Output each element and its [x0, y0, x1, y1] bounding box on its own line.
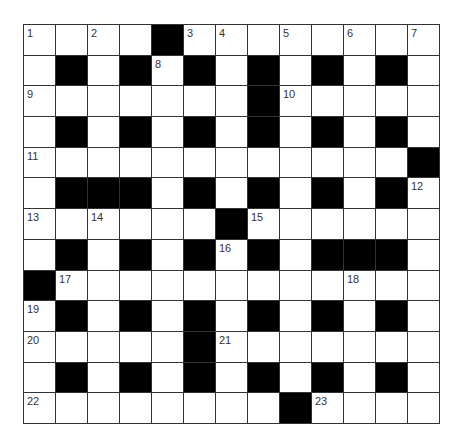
answer-cell[interactable] — [88, 240, 119, 270]
answer-cell[interactable] — [344, 393, 375, 423]
answer-cell[interactable] — [216, 86, 247, 116]
answer-cell[interactable] — [184, 148, 215, 178]
answer-cell[interactable]: 3 — [184, 25, 215, 55]
answer-cell[interactable] — [408, 117, 439, 147]
answer-cell[interactable] — [248, 332, 279, 362]
answer-cell[interactable] — [24, 363, 55, 393]
answer-cell[interactable] — [312, 148, 343, 178]
answer-cell[interactable] — [280, 178, 311, 208]
answer-cell[interactable] — [280, 363, 311, 393]
answer-cell[interactable]: 19 — [24, 301, 55, 331]
answer-cell[interactable] — [88, 86, 119, 116]
answer-cell[interactable] — [376, 271, 407, 301]
answer-cell[interactable]: 14 — [88, 209, 119, 239]
answer-cell[interactable] — [376, 209, 407, 239]
answer-cell[interactable] — [248, 148, 279, 178]
answer-cell[interactable] — [184, 393, 215, 423]
answer-cell[interactable] — [312, 86, 343, 116]
answer-cell[interactable] — [216, 271, 247, 301]
answer-cell[interactable] — [24, 178, 55, 208]
answer-cell[interactable]: 4 — [216, 25, 247, 55]
answer-cell[interactable] — [280, 240, 311, 270]
answer-cell[interactable] — [152, 301, 183, 331]
answer-cell[interactable] — [216, 393, 247, 423]
answer-cell[interactable] — [280, 332, 311, 362]
answer-cell[interactable]: 12 — [408, 178, 439, 208]
answer-cell[interactable]: 15 — [248, 209, 279, 239]
answer-cell[interactable]: 23 — [312, 393, 343, 423]
answer-cell[interactable] — [184, 271, 215, 301]
answer-cell[interactable] — [408, 209, 439, 239]
answer-cell[interactable] — [24, 240, 55, 270]
answer-cell[interactable] — [376, 148, 407, 178]
answer-cell[interactable] — [312, 209, 343, 239]
answer-cell[interactable] — [312, 271, 343, 301]
answer-cell[interactable]: 21 — [216, 332, 247, 362]
answer-cell[interactable] — [120, 25, 151, 55]
answer-cell[interactable] — [56, 86, 87, 116]
answer-cell[interactable] — [344, 332, 375, 362]
answer-cell[interactable] — [88, 56, 119, 86]
answer-cell[interactable] — [344, 56, 375, 86]
answer-cell[interactable] — [344, 178, 375, 208]
answer-cell[interactable] — [408, 86, 439, 116]
answer-cell[interactable]: 8 — [152, 56, 183, 86]
answer-cell[interactable] — [56, 148, 87, 178]
answer-cell[interactable] — [152, 332, 183, 362]
answer-cell[interactable] — [344, 117, 375, 147]
answer-cell[interactable] — [120, 209, 151, 239]
answer-cell[interactable]: 17 — [56, 271, 87, 301]
answer-cell[interactable] — [376, 332, 407, 362]
answer-cell[interactable] — [120, 86, 151, 116]
answer-cell[interactable] — [312, 332, 343, 362]
answer-cell[interactable] — [408, 301, 439, 331]
answer-cell[interactable] — [280, 117, 311, 147]
answer-cell[interactable] — [88, 148, 119, 178]
answer-cell[interactable] — [88, 393, 119, 423]
answer-cell[interactable] — [248, 25, 279, 55]
answer-cell[interactable] — [280, 148, 311, 178]
answer-cell[interactable] — [344, 301, 375, 331]
answer-cell[interactable] — [376, 86, 407, 116]
answer-cell[interactable] — [280, 271, 311, 301]
answer-cell[interactable] — [152, 209, 183, 239]
answer-cell[interactable] — [216, 178, 247, 208]
answer-cell[interactable]: 18 — [344, 271, 375, 301]
answer-cell[interactable] — [376, 25, 407, 55]
answer-cell[interactable] — [280, 56, 311, 86]
answer-cell[interactable] — [56, 393, 87, 423]
answer-cell[interactable]: 7 — [408, 25, 439, 55]
answer-cell[interactable] — [408, 240, 439, 270]
answer-cell[interactable] — [216, 301, 247, 331]
answer-cell[interactable]: 6 — [344, 25, 375, 55]
answer-cell[interactable] — [408, 271, 439, 301]
answer-cell[interactable]: 22 — [24, 393, 55, 423]
answer-cell[interactable] — [280, 209, 311, 239]
answer-cell[interactable] — [88, 271, 119, 301]
answer-cell[interactable] — [376, 393, 407, 423]
answer-cell[interactable] — [152, 393, 183, 423]
answer-cell[interactable] — [248, 271, 279, 301]
answer-cell[interactable] — [344, 363, 375, 393]
answer-cell[interactable] — [152, 148, 183, 178]
answer-cell[interactable]: 20 — [24, 332, 55, 362]
answer-cell[interactable] — [312, 25, 343, 55]
answer-cell[interactable] — [408, 332, 439, 362]
answer-cell[interactable]: 1 — [24, 25, 55, 55]
answer-cell[interactable]: 11 — [24, 148, 55, 178]
answer-cell[interactable] — [24, 56, 55, 86]
answer-cell[interactable] — [280, 301, 311, 331]
answer-cell[interactable]: 5 — [280, 25, 311, 55]
answer-cell[interactable] — [216, 148, 247, 178]
answer-cell[interactable]: 9 — [24, 86, 55, 116]
answer-cell[interactable] — [152, 240, 183, 270]
answer-cell[interactable] — [216, 363, 247, 393]
answer-cell[interactable] — [56, 332, 87, 362]
answer-cell[interactable] — [248, 393, 279, 423]
answer-cell[interactable] — [24, 117, 55, 147]
answer-cell[interactable] — [344, 148, 375, 178]
answer-cell[interactable] — [408, 393, 439, 423]
answer-cell[interactable] — [88, 301, 119, 331]
answer-cell[interactable]: 10 — [280, 86, 311, 116]
answer-cell[interactable] — [408, 56, 439, 86]
